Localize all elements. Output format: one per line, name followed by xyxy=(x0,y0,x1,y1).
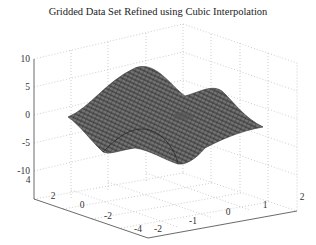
surface-plot: 10 5 0 -5 -10 4 2 0 -2 -4 -2 -1 0 1 2 xyxy=(0,0,316,245)
z-axis-ticks: 10 5 0 -5 -10 xyxy=(17,54,30,176)
surface-mesh xyxy=(68,66,263,164)
svg-text:-2: -2 xyxy=(104,211,112,221)
svg-text:5: 5 xyxy=(25,82,30,92)
svg-text:0: 0 xyxy=(25,110,30,120)
svg-text:4: 4 xyxy=(26,175,31,185)
y-axis-ticks: 4 2 0 -2 -4 xyxy=(26,175,143,234)
svg-text:-5: -5 xyxy=(22,138,30,148)
x-axis-ticks: -2 -1 0 1 2 xyxy=(154,192,305,234)
svg-text:1: 1 xyxy=(263,200,268,210)
svg-text:-2: -2 xyxy=(154,224,162,234)
svg-text:0: 0 xyxy=(226,207,231,217)
svg-text:0: 0 xyxy=(80,200,85,210)
svg-text:2: 2 xyxy=(51,191,56,201)
svg-text:-4: -4 xyxy=(134,224,142,234)
svg-text:-1: -1 xyxy=(189,216,197,226)
svg-text:10: 10 xyxy=(21,54,31,64)
svg-text:2: 2 xyxy=(300,192,305,202)
